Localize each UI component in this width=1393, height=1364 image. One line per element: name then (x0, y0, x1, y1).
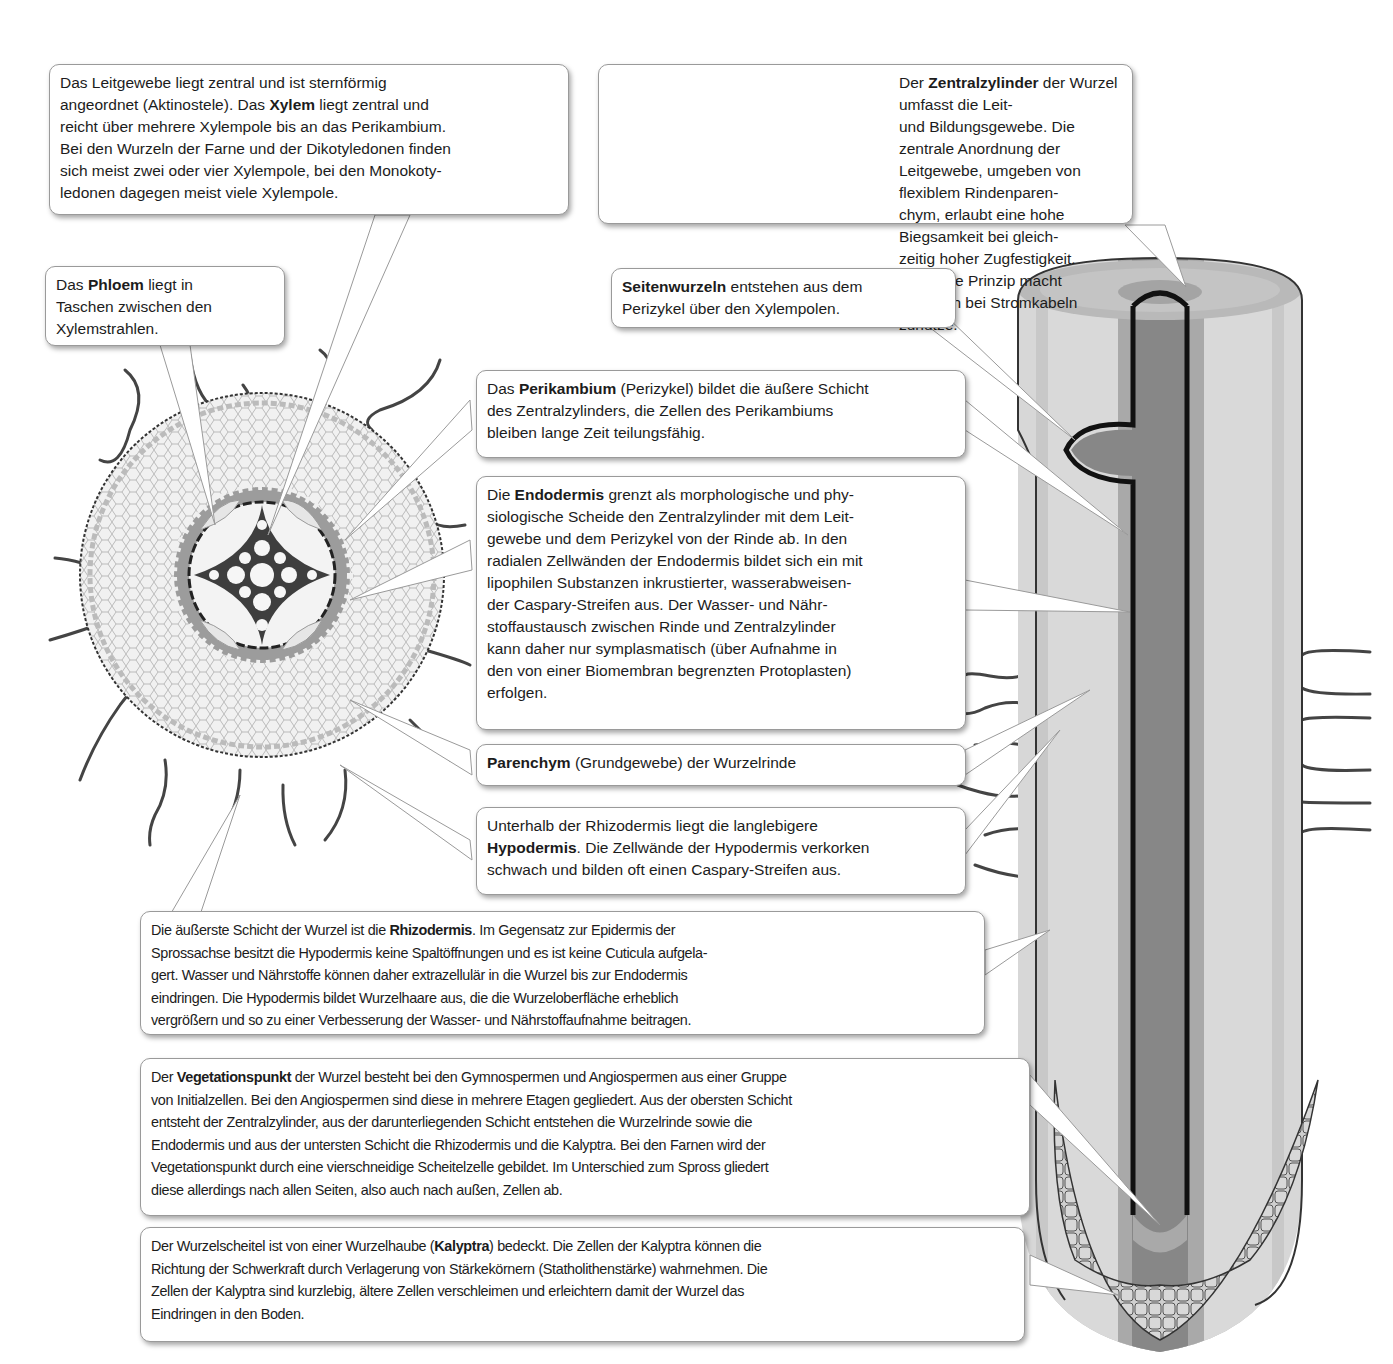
label-text: grenzt als morphologische und phy- siolo… (487, 486, 863, 701)
term-highlight: Rhizodermis (389, 922, 472, 938)
label-text: Das (487, 380, 519, 397)
label-text: Die äußerste Schicht der Wurzel ist die (151, 922, 389, 938)
label-text: Unterhalb der Rhizodermis liegt die lang… (487, 817, 818, 834)
label-text: Der Wurzelscheitel ist von einer Wurzelh… (151, 1238, 434, 1254)
label-kalyptra: Der Wurzelscheitel ist von einer Wurzelh… (140, 1227, 1025, 1342)
term-highlight: Seitenwurzeln (622, 278, 726, 295)
term-highlight: Hypodermis (487, 839, 577, 856)
term-highlight: Vegetationspunkt (177, 1069, 291, 1085)
term-highlight: Kalyptra (434, 1238, 489, 1254)
label-text: Die (487, 486, 515, 503)
term-highlight: Phloem (88, 276, 144, 293)
label-rhizodermis: Die äußerste Schicht der Wurzel ist die … (140, 911, 985, 1035)
label-parenchym: Parenchym (Grundgewebe) der Wurzelrinde (476, 744, 966, 786)
label-text: Der (899, 74, 928, 91)
label-seitenwurzeln: Seitenwurzeln entstehen aus dem Perizyke… (611, 268, 956, 328)
label-hypodermis: Unterhalb der Rhizodermis liegt die lang… (476, 807, 966, 895)
label-vegetationspunkt: Der Vegetationspunkt der Wurzel besteht … (140, 1058, 1030, 1216)
label-phloem: Das Phloem liegt in Taschen zwischen den… (45, 266, 285, 346)
cross-section-illustration (50, 350, 470, 860)
term-highlight: Perikambium (519, 380, 616, 397)
label-text: (Grundgewebe) der Wurzelrinde (571, 754, 796, 771)
root-anatomy-figure: Das Leitgewebe liegt zentral und ist ste… (0, 0, 1393, 1364)
label-endodermis: Die Endodermis grenzt als morphologische… (476, 476, 966, 730)
term-highlight: Endodermis (515, 486, 605, 503)
term-highlight: Parenchym (487, 754, 571, 771)
term-highlight: Xylem (269, 96, 315, 113)
label-zentralzylinder: Der Zentralzylinder der Wurzel umfasst d… (598, 64, 1133, 224)
label-text: der Wurzel besteht bei den Gymnospermen … (151, 1069, 792, 1198)
label-leitgewebe-xylem: Das Leitgewebe liegt zentral und ist ste… (49, 64, 569, 215)
label-perikambium: Das Perikambium (Perizykel) bildet die ä… (476, 370, 966, 458)
label-text: Das (56, 276, 88, 293)
label-text: Der (151, 1069, 177, 1085)
term-highlight: Zentralzylinder (928, 74, 1038, 91)
